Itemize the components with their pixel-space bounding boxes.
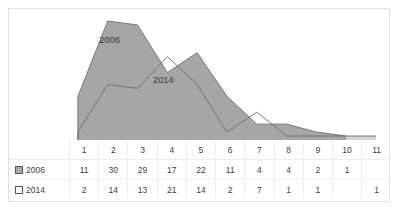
cell-2006-5: 22: [186, 160, 215, 180]
cell-2014-10: [332, 180, 361, 200]
column-header-5: 5: [186, 140, 215, 160]
column-header-10: 10: [332, 140, 361, 160]
legend-swatch-2006-icon: [15, 166, 23, 174]
cell-2006-4: 17: [157, 160, 186, 180]
legend-swatch-2014-icon: [15, 186, 23, 194]
column-header-4: 4: [157, 140, 186, 160]
column-header-7: 7: [245, 140, 274, 160]
cell-2014-3: 13: [128, 180, 157, 200]
column-header-1: 1: [70, 140, 99, 160]
column-header-2: 2: [99, 140, 128, 160]
cell-2014-7: 7: [245, 180, 274, 200]
cell-2014-5: 14: [186, 180, 215, 200]
data-table: 1234567891011 2006 1130291722114421 2014…: [9, 140, 391, 202]
legend-label-2014: 2014: [26, 185, 45, 195]
data-table-grid: 1234567891011 2006 1130291722114421 2014…: [9, 140, 391, 199]
cell-2006-7: 4: [245, 160, 274, 180]
legend-label-2006: 2006: [26, 165, 45, 175]
cell-2014-11: 1: [362, 180, 391, 200]
chart-card: 2006 2014 1234567891011 2006 11302917221…: [8, 8, 390, 202]
cell-2006-10: 1: [332, 160, 361, 180]
table-row-header: 1234567891011: [9, 140, 391, 160]
cell-2006-1: 11: [70, 160, 99, 180]
cell-2014-4: 21: [157, 180, 186, 200]
cell-2006-9: 2: [303, 160, 332, 180]
table-row-2014: 2014 21413211427111: [9, 180, 391, 200]
legend-header-cell: [9, 140, 70, 160]
legend-cell-2014[interactable]: 2014: [9, 180, 70, 200]
cell-2014-9: 1: [303, 180, 332, 200]
table-row-2006: 2006 1130291722114421: [9, 160, 391, 180]
legend-cell-2006[interactable]: 2006: [9, 160, 70, 180]
cell-2006-6: 11: [216, 160, 245, 180]
series-label-2006: 2006: [99, 35, 120, 45]
series-label-2014: 2014: [153, 75, 174, 85]
column-header-3: 3: [128, 140, 157, 160]
cell-2014-6: 2: [216, 180, 245, 200]
column-header-11: 11: [362, 140, 391, 160]
area-chart-svg: 2006 2014: [9, 9, 391, 140]
cell-2006-2: 30: [99, 160, 128, 180]
plot-area: 2006 2014: [9, 9, 391, 140]
cell-2014-1: 2: [70, 180, 99, 200]
column-header-8: 8: [274, 140, 303, 160]
cell-2014-2: 14: [99, 180, 128, 200]
cell-2006-8: 4: [274, 160, 303, 180]
cell-2014-8: 1: [274, 180, 303, 200]
column-header-9: 9: [303, 140, 332, 160]
cell-2006-3: 29: [128, 160, 157, 180]
column-header-6: 6: [216, 140, 245, 160]
cell-2006-11: [362, 160, 391, 180]
